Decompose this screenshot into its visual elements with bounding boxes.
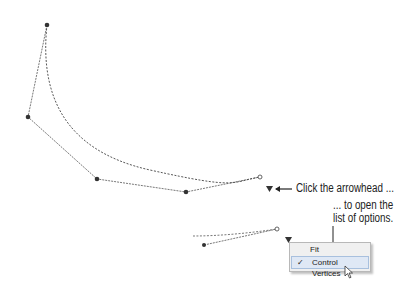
menu-item-fit[interactable]: Fit: [290, 243, 370, 256]
control-vertex[interactable]: [45, 23, 50, 28]
checkmark-icon: ✓: [297, 257, 304, 268]
spline-curve: [46, 25, 260, 183]
annotation-line: list of options.: [333, 212, 393, 225]
callout-arrow-tip-icon: [275, 186, 280, 192]
end-vertex[interactable]: [258, 175, 262, 179]
options-menu: Fit ✓Control Vertices: [289, 242, 371, 272]
menu-item-label: Fit: [310, 245, 319, 254]
control-vertex[interactable]: [184, 190, 189, 195]
control-vertex[interactable]: [95, 177, 100, 182]
menu-item-control-vertices[interactable]: ✓Control Vertices: [291, 256, 369, 269]
end-vertex[interactable]: [275, 227, 279, 231]
control-vertex[interactable]: [26, 115, 31, 120]
control-vertex[interactable]: [202, 243, 206, 247]
mouse-cursor-icon: [344, 265, 354, 279]
spline-curve-small: [193, 229, 277, 236]
arrowhead-icon[interactable]: [266, 186, 273, 192]
annotation-click-arrowhead: Click the arrowhead ...: [296, 182, 394, 195]
control-polygon: [28, 25, 260, 192]
annotation-open-list: ... to open the list of options.: [333, 199, 393, 225]
menu-item-label: Control Vertices: [312, 258, 340, 278]
control-polygon-small: [204, 229, 277, 245]
